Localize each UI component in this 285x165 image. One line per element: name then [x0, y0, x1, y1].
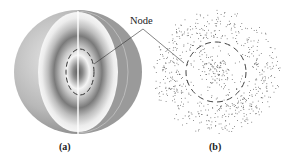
- panel-b-dot-density: [154, 10, 281, 134]
- panel-b-caption: (b): [209, 141, 221, 152]
- panel-a-sphere: [14, 10, 142, 134]
- node-circle-b: [186, 42, 246, 102]
- node-label: Node: [130, 15, 153, 26]
- panel-a-caption: (a): [59, 141, 71, 152]
